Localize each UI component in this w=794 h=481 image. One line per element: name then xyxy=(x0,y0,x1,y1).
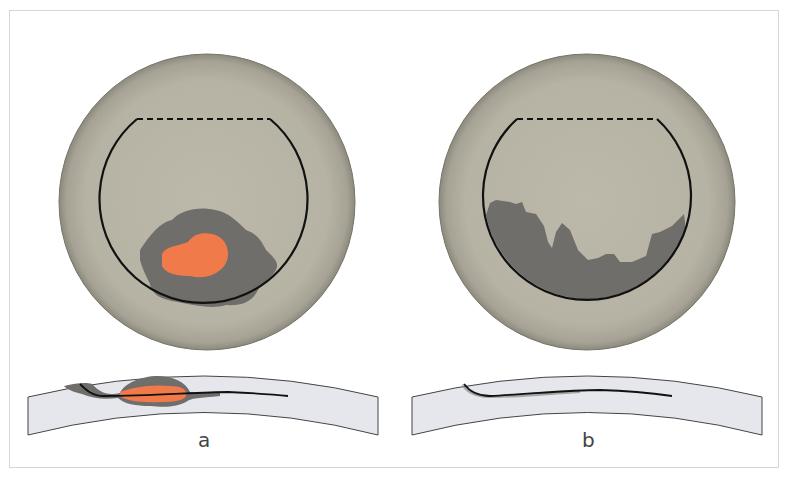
panel-b-cross-section xyxy=(412,376,762,435)
diagram-canvas xyxy=(0,0,794,481)
panel-a-cross-section xyxy=(28,376,378,435)
panel-b-label: b xyxy=(582,428,595,452)
panel-b-disc xyxy=(439,54,735,350)
panel-a-label: a xyxy=(198,428,210,452)
panel-a-disc xyxy=(59,54,355,350)
